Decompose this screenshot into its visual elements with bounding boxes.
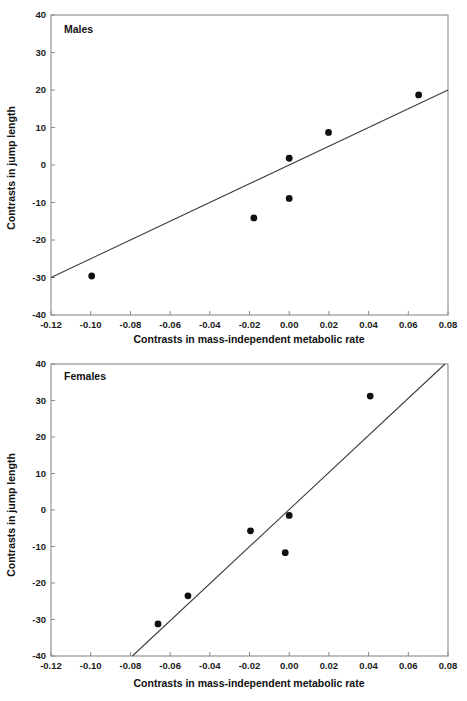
x-tick-label: 0.08 xyxy=(439,660,458,671)
y-tick-label: 30 xyxy=(35,47,46,58)
x-tick-label: -0.10 xyxy=(80,660,102,671)
data-point xyxy=(286,512,293,519)
males-data-points xyxy=(88,91,422,279)
x-tick-label: -0.04 xyxy=(199,319,221,330)
data-point xyxy=(415,91,422,98)
x-tick-label: -0.02 xyxy=(239,660,261,671)
males-regression-line xyxy=(51,90,448,278)
males-x-axis-title: Contrasts in mass-independent metabolic … xyxy=(133,333,364,345)
y-tick-label: 10 xyxy=(35,468,46,479)
data-point xyxy=(88,273,95,280)
males-tick-labels: -0.12-0.10-0.08-0.06-0.04-0.020.000.020.… xyxy=(32,9,457,330)
data-point xyxy=(367,393,374,400)
x-tick-label: 0.04 xyxy=(359,319,378,330)
y-tick-label: -40 xyxy=(32,309,46,320)
x-tick-label: 0.02 xyxy=(320,319,339,330)
x-tick-label: -0.08 xyxy=(120,660,142,671)
males-panel-label: Males xyxy=(64,23,93,35)
x-tick-label: -0.06 xyxy=(159,319,181,330)
data-point xyxy=(185,592,192,599)
x-tick-label: 0.04 xyxy=(359,660,378,671)
x-tick-label: 0.00 xyxy=(280,660,299,671)
data-point xyxy=(155,620,162,627)
x-tick-label: 0.00 xyxy=(280,319,299,330)
y-tick-label: 40 xyxy=(35,9,46,20)
regression-line xyxy=(51,90,448,278)
x-tick-label: 0.06 xyxy=(399,319,418,330)
y-tick-label: -30 xyxy=(32,272,46,283)
y-tick-label: 30 xyxy=(35,395,46,406)
data-point xyxy=(247,527,254,534)
panel-females: -0.12-0.10-0.08-0.06-0.04-0.020.000.020.… xyxy=(0,350,467,701)
data-point xyxy=(325,129,332,136)
y-tick-label: -10 xyxy=(32,541,46,552)
x-tick-label: -0.02 xyxy=(239,319,261,330)
x-tick-label: -0.04 xyxy=(199,660,221,671)
y-tick-label: -20 xyxy=(32,234,46,245)
y-tick-label: 10 xyxy=(35,122,46,133)
y-tick-label: -10 xyxy=(32,197,46,208)
females-axes xyxy=(51,364,448,656)
males-chart-svg: -0.12-0.10-0.08-0.06-0.04-0.020.000.020.… xyxy=(0,0,467,350)
females-regression-line xyxy=(132,364,445,656)
x-tick-label: -0.06 xyxy=(159,660,181,671)
scatter-plot-figure: -0.12-0.10-0.08-0.06-0.04-0.020.000.020.… xyxy=(0,0,467,701)
x-tick-label: -0.10 xyxy=(80,319,102,330)
data-point xyxy=(286,195,293,202)
y-tick-label: -20 xyxy=(32,577,46,588)
data-point xyxy=(286,155,293,162)
females-y-axis-title: Contrasts in jump length xyxy=(5,453,17,577)
y-tick-label: -40 xyxy=(32,650,46,661)
females-data-points xyxy=(155,393,374,628)
x-tick-label: -0.12 xyxy=(40,319,62,330)
y-tick-label: 0 xyxy=(41,504,46,515)
x-tick-label: 0.06 xyxy=(399,660,418,671)
data-point xyxy=(250,214,257,221)
females-x-axis-title: Contrasts in mass-independent metabolic … xyxy=(133,677,364,689)
x-tick-label: 0.08 xyxy=(439,319,458,330)
x-tick-label: 0.02 xyxy=(320,660,339,671)
males-axes xyxy=(51,15,448,315)
data-point xyxy=(282,549,289,556)
y-tick-label: 20 xyxy=(35,431,46,442)
x-tick-label: -0.12 xyxy=(40,660,62,671)
males-y-axis-title: Contrasts in jump length xyxy=(5,106,17,230)
panel-males: -0.12-0.10-0.08-0.06-0.04-0.020.000.020.… xyxy=(0,0,467,350)
y-tick-label: 40 xyxy=(35,358,46,369)
regression-line xyxy=(132,364,445,656)
females-tick-labels: -0.12-0.10-0.08-0.06-0.04-0.020.000.020.… xyxy=(32,358,457,671)
y-tick-label: -30 xyxy=(32,614,46,625)
females-panel-label: Females xyxy=(64,370,106,382)
x-tick-label: -0.08 xyxy=(120,319,142,330)
y-tick-label: 20 xyxy=(35,84,46,95)
y-tick-label: 0 xyxy=(41,159,46,170)
females-chart-svg: -0.12-0.10-0.08-0.06-0.04-0.020.000.020.… xyxy=(0,350,467,701)
